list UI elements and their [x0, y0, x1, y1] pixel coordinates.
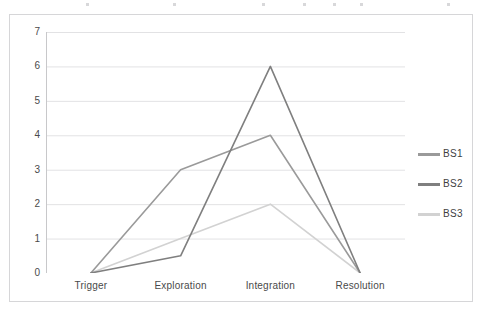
y-tick-label: 3: [24, 165, 40, 175]
x-axis: TriggerExplorationIntegrationResolution: [46, 279, 405, 295]
line-chart-svg: [46, 32, 405, 273]
y-tick-label: 4: [24, 130, 40, 140]
y-tick-label: 7: [24, 27, 40, 37]
chart-container: 76543210 TriggerExplorationIntegrationRe…: [9, 14, 473, 302]
legend-swatch-icon: [418, 153, 440, 156]
y-tick-label: 2: [24, 199, 40, 209]
legend-item-bs1[interactable]: BS1: [418, 139, 474, 169]
y-tick-label: 1: [24, 234, 40, 244]
legend-swatch-icon: [418, 213, 440, 216]
legend-label: BS2: [443, 179, 463, 189]
y-tick-label: 5: [24, 96, 40, 106]
legend-item-bs2[interactable]: BS2: [418, 169, 474, 199]
legend-label: BS1: [443, 149, 463, 159]
x-tick-label: Integration: [226, 279, 316, 295]
x-tick-label: Trigger: [46, 279, 136, 295]
y-axis: 76543210: [20, 32, 40, 273]
y-tick-label: 0: [24, 268, 40, 278]
legend-item-bs3[interactable]: BS3: [418, 199, 474, 229]
y-tick-label: 6: [24, 61, 40, 71]
chart-legend: BS1BS2BS3: [418, 139, 474, 229]
legend-swatch-icon: [418, 183, 440, 186]
scan-artifact-strip: [0, 0, 482, 13]
x-tick-label: Resolution: [315, 279, 405, 295]
plot-area: [46, 32, 405, 273]
x-tick-label: Exploration: [136, 279, 226, 295]
legend-label: BS3: [443, 209, 463, 219]
